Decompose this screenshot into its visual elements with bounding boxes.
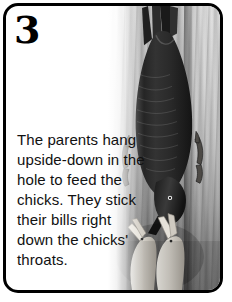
caption-text: The parents hang upside-down in the hole… [17,130,149,270]
panel-caption: The parents hang upside-down in the hole… [17,130,149,270]
panel-number: 3 [14,10,39,50]
story-panel: 3 The parents hang upside-down in the ho… [3,3,223,293]
bird-foot-right [195,131,203,183]
